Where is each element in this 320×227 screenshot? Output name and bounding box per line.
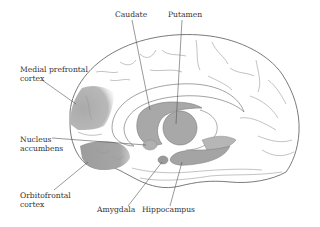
label-amygdala: Amygdala [97,205,135,214]
label-orbitofrontal-cortex: Orbitofrontal cortex [20,191,71,209]
orbitofrontal-cortex-region [80,141,130,170]
label-putamen: Putamen [168,10,202,19]
label-hippocampus: Hippocampus [142,205,195,214]
brain-diagram: Caudate Putamen Medial prefrontal cortex… [0,0,320,227]
putamen-structure [163,111,197,145]
mpfc-leader [42,80,76,104]
label-caudate: Caudate [115,10,147,19]
label-medial-prefrontal-cortex: Medial prefrontal cortex [20,65,88,83]
amygdala-structure [158,156,168,164]
ofc-leader [54,162,88,190]
label-nucleus-accumbens: Nucleus accumbens [20,135,63,153]
